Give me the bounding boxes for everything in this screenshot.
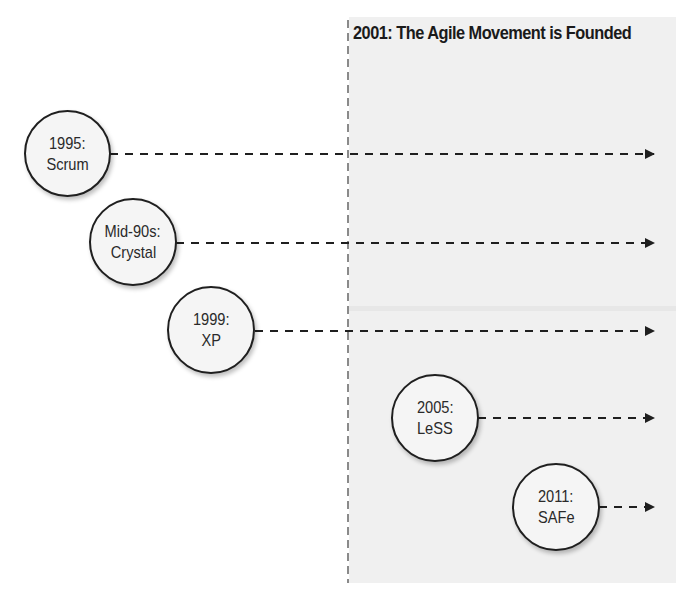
node-year: 2011: — [538, 486, 574, 507]
node-label: SAFe — [538, 507, 575, 528]
node-label: Crystal — [110, 242, 155, 263]
node-label: Scrum — [46, 154, 88, 175]
node-label: LeSS — [417, 418, 453, 439]
node-year: 1995: — [49, 133, 86, 154]
node-crystal: Mid-90s: Crystal — [89, 198, 177, 286]
node-safe: 2011: SAFe — [512, 463, 600, 551]
node-year: 2005: — [417, 397, 454, 418]
node-less: 2005: LeSS — [391, 374, 479, 462]
node-label: XP — [201, 330, 221, 351]
node-scrum: 1995: Scrum — [24, 110, 111, 197]
node-xp: 1999: XP — [167, 286, 255, 374]
node-year: 1999: — [193, 309, 230, 330]
node-year: Mid-90s: — [105, 221, 161, 242]
